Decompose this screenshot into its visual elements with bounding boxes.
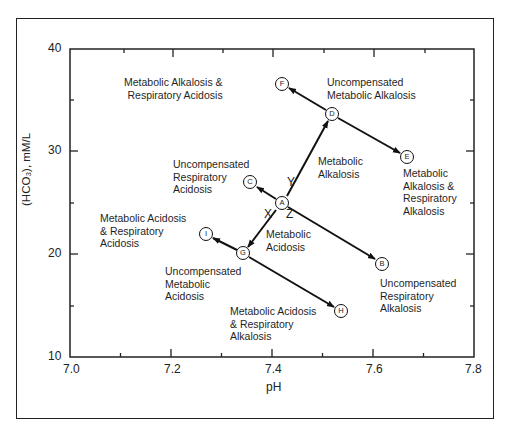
y-tick-20: 20 <box>48 246 61 260</box>
label-B: UncompensatedRespiratoryAlkalosis <box>380 277 456 315</box>
x-tick-7.0: 7.0 <box>63 362 80 376</box>
label-C: UncompensatedRespiratoryAcidosis <box>173 158 249 196</box>
point-B: B <box>375 257 389 271</box>
label-F: Metabolic Alkalosis &Respiratory Acidosi… <box>124 76 223 101</box>
point-G: G <box>236 246 250 260</box>
arrow-D-F <box>289 88 326 110</box>
x-tick-7.8: 7.8 <box>465 362 482 376</box>
y-tick-40: 40 <box>48 41 61 55</box>
x-axis-label: pH <box>266 380 281 394</box>
point-H: H <box>334 304 348 318</box>
x-tick-7.6: 7.6 <box>366 362 383 376</box>
y-tick-30: 30 <box>48 143 61 157</box>
marker-X: X <box>264 207 272 221</box>
label-metabolic-acidosis: MetabolicAcidosis <box>266 228 311 253</box>
marker-Y: Y <box>287 175 295 189</box>
label-E: MetabolicAlkalosis &RespiratoryAlkalosis <box>403 167 457 217</box>
label-G: UncompensatedMetabolicAcidosis <box>165 265 241 303</box>
y-axis-label: (HCO₃), mM/L <box>20 133 32 206</box>
arrow-G-I <box>213 238 237 250</box>
arrow-G-H <box>249 257 334 307</box>
arrow-D-E <box>338 118 400 153</box>
point-D: D <box>325 107 339 121</box>
point-I: I <box>199 227 213 241</box>
label-metabolic-alkalosis: MetabolicAlkalosis <box>318 155 363 180</box>
label-H: Metabolic Acidosis& RespiratoryAlkalosis <box>230 305 316 343</box>
marker-Z: Z <box>286 207 293 221</box>
arrow-A-C <box>257 187 276 199</box>
x-tick-7.4: 7.4 <box>265 362 282 376</box>
y-tick-10: 10 <box>48 349 61 363</box>
label-D: UncompensatedMetabolic Alkalosis <box>327 76 416 101</box>
point-F: F <box>275 77 289 91</box>
x-tick-7.2: 7.2 <box>164 362 181 376</box>
point-E: E <box>400 150 414 164</box>
label-I: Metabolic Acidosis& RespiratoryAcidosis <box>100 212 186 250</box>
